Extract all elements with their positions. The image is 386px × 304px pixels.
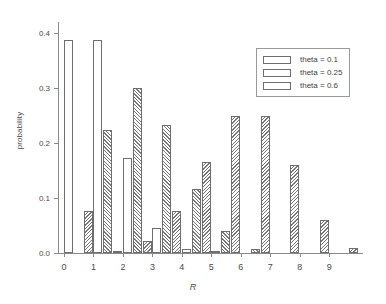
x-tick-label: 3 <box>150 262 155 272</box>
legend-label: theta = 0.6 <box>300 81 338 90</box>
bar <box>221 231 230 253</box>
y-tick-label: 0.3 <box>39 84 50 93</box>
x-tick-mark <box>182 253 183 257</box>
x-tick-label: 4 <box>179 262 184 272</box>
y-tick-mark: 0.4 <box>54 33 58 34</box>
legend-row: theta = 0.25 <box>263 67 342 78</box>
x-tick-mark <box>123 253 124 257</box>
bar <box>162 125 171 253</box>
legend-swatch-backward-hatch <box>263 82 291 90</box>
y-axis-label: probability <box>15 86 24 176</box>
bar <box>231 116 240 254</box>
y-tick-label: 0.0 <box>39 249 50 258</box>
x-tick-mark <box>152 253 153 257</box>
bar <box>202 162 211 253</box>
x-tick-label: 1 <box>91 262 96 272</box>
legend-swatch-forward-hatch <box>263 69 291 77</box>
x-tick-label: 6 <box>238 262 243 272</box>
bar <box>192 189 201 253</box>
bar <box>113 251 122 253</box>
bar <box>349 248 358 254</box>
x-tick-mark <box>93 253 94 257</box>
y-tick-label: 0.4 <box>39 29 50 38</box>
chart-legend: theta = 0.1theta = 0.25theta = 0.6 <box>256 48 350 97</box>
y-tick-mark: 0.3 <box>54 88 58 89</box>
bar <box>211 251 220 253</box>
bar <box>123 158 132 253</box>
x-tick-label: 5 <box>209 262 214 272</box>
bar <box>182 249 191 253</box>
y-tick-mark: 0.2 <box>54 143 58 144</box>
x-tick-mark <box>329 253 330 257</box>
legend-label: theta = 0.25 <box>300 68 342 77</box>
x-tick-label: 2 <box>120 262 125 272</box>
bar <box>261 116 270 254</box>
bar <box>152 228 161 253</box>
legend-row: theta = 0.1 <box>263 54 342 65</box>
bar <box>133 88 142 253</box>
legend-row: theta = 0.6 <box>263 80 342 91</box>
y-axis-line <box>58 22 59 253</box>
bar-chart-figure: probability 0.00.10.20.30.4 0123456789 R… <box>0 0 386 304</box>
legend-label: theta = 0.1 <box>300 55 338 64</box>
x-tick-mark <box>270 253 271 257</box>
bar <box>84 211 93 253</box>
y-tick-label: 0.2 <box>39 139 50 148</box>
x-tick-mark <box>211 253 212 257</box>
x-axis-label: R <box>0 282 386 292</box>
x-tick-mark <box>300 253 301 257</box>
bar <box>64 40 73 253</box>
y-tick-mark: 0.0 <box>54 253 58 254</box>
x-tick-label: 0 <box>61 262 66 272</box>
bar <box>172 211 181 253</box>
legend-swatch-none <box>263 56 291 64</box>
bar <box>143 241 152 253</box>
y-tick-mark: 0.1 <box>54 198 58 199</box>
x-tick-mark <box>241 253 242 257</box>
bar <box>290 165 299 253</box>
y-tick-label: 0.1 <box>39 194 50 203</box>
bar <box>320 220 329 253</box>
x-tick-label: 8 <box>297 262 302 272</box>
bar <box>93 40 102 253</box>
x-tick-label: 9 <box>327 262 332 272</box>
bar <box>251 249 260 253</box>
x-tick-label: 7 <box>268 262 273 272</box>
bar <box>103 130 112 253</box>
x-tick-mark <box>64 253 65 257</box>
